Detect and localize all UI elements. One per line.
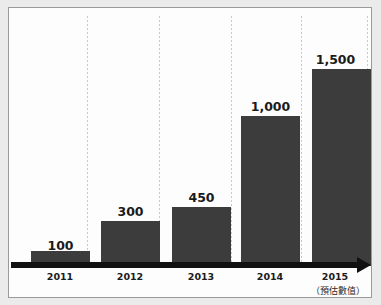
chart-panel: 1003004501,0001,500 （預估數值） 2011201220132… (8, 7, 372, 298)
bar-2012[interactable] (101, 221, 160, 266)
x-axis-labels: （預估數值） 20112012201320142015 (9, 262, 371, 298)
bar-2013[interactable] (172, 207, 231, 266)
bar-2014[interactable] (241, 116, 300, 266)
clipped-header-text: ··· ·· ······· (314, 0, 373, 4)
gridline-1 (87, 16, 88, 266)
x-tick-label-2014: 2014 (240, 271, 300, 282)
bar-value-label-2012: 300 (101, 204, 160, 219)
gridline-4 (301, 16, 302, 266)
bar-value-label-2014: 1,000 (241, 99, 300, 114)
bar-value-label-2015: 1,500 (306, 52, 365, 67)
x-tick-label-2013: 2013 (171, 271, 231, 282)
gridline-3 (231, 16, 232, 266)
x-tick-label-2011: 2011 (30, 271, 90, 282)
x-tick-label-2015: 2015 (305, 271, 365, 282)
bar-2015[interactable] (312, 69, 371, 266)
plot-area: 1003004501,0001,500 (9, 8, 371, 266)
bar-value-label-2011: 100 (31, 238, 90, 253)
bar-value-label-2013: 450 (172, 190, 231, 205)
footnote-text: （預估數值） (311, 284, 365, 297)
clipped-header-strip: ··· ·· ······· (0, 0, 381, 7)
chart-root: ··· ·· ······· 1003004501,0001,500 （預估數值… (0, 0, 381, 305)
x-tick-label-2012: 2012 (100, 271, 160, 282)
